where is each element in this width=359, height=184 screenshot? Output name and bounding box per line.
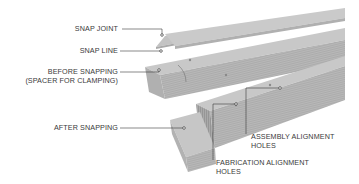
leader-snap-joint — [122, 29, 162, 35]
label-snap-line: SNAP LINE — [40, 47, 118, 55]
label-assembly-alignment-holes: ASSEMBLY ALIGNMENT — [251, 133, 334, 141]
label-assembly-alignment-holes-2: HOLES — [251, 142, 276, 150]
label-before-snapping: BEFORE SNAPPING — [10, 68, 118, 76]
label-fabrication-alignment-holes-2: HOLES — [216, 168, 241, 176]
label-fabrication-alignment-holes: FABRICATION ALIGNMENT — [216, 159, 309, 167]
label-after-snapping: AFTER SNAPPING — [20, 124, 118, 132]
snap-joint-diagram: SNAP JOINT SNAP LINE BEFORE SNAPPING (SP… — [0, 0, 359, 184]
label-snap-joint: SNAP JOINT — [40, 25, 118, 33]
label-before-snapping-note: (SPACER FOR CLAMPING) — [10, 77, 118, 85]
